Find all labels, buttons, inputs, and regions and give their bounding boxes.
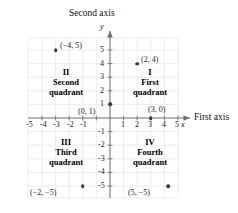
x-axis-variable: x <box>181 120 185 129</box>
quadrant-label-III: III Third quadrant <box>40 138 92 167</box>
point-label-neg2-neg5: (−2, −5) <box>30 189 56 197</box>
point-dot-2-4 <box>135 62 139 66</box>
quadrant-IV-word1: Fourth <box>124 148 176 157</box>
y-tick-label-5: 5 <box>100 46 104 54</box>
y-tick-label-neg1: -1 <box>98 128 105 136</box>
point-label-5-neg5: (5, −5) <box>128 189 150 197</box>
quadrant-I-numeral: I <box>124 68 176 77</box>
quadrant-III-word2: quadrant <box>40 158 92 167</box>
x-axis-title: First axis <box>194 113 229 123</box>
y-axis-title: Second axis <box>69 9 115 19</box>
quadrant-IV-numeral: IV <box>124 138 176 147</box>
y-tick-label-1: 1 <box>100 100 104 108</box>
x-tick-label-neg1: -1 <box>80 121 87 129</box>
quadrant-III-word1: Third <box>40 148 92 157</box>
x-tick-label-neg5: -5 <box>26 121 33 129</box>
point-dot-0-1 <box>108 103 112 107</box>
y-tick-label-neg5: -5 <box>98 182 105 190</box>
point-label-0-1: (0, 1) <box>78 108 95 116</box>
quadrant-IV-word2: quadrant <box>124 158 176 167</box>
y-tick-label-2: 2 <box>100 87 104 95</box>
y-axis-variable: y <box>100 22 104 31</box>
x-tick-label-5: 5 <box>175 121 179 129</box>
point-dot-neg2-neg5 <box>81 184 85 188</box>
plane-graphics <box>0 0 238 213</box>
quadrant-II-numeral: II <box>40 68 92 77</box>
x-tick-label-2: 2 <box>135 121 139 129</box>
quadrant-I-word1: First <box>124 78 176 87</box>
quadrant-I-word2: quadrant <box>124 88 176 97</box>
x-tick-label-1: 1 <box>121 121 125 129</box>
quadrant-label-IV: IV Fourth quadrant <box>124 138 176 167</box>
point-label-3-0: (3, 0) <box>148 106 165 114</box>
x-tick-label-neg3: -3 <box>53 121 60 129</box>
quadrant-label-II: II Second quadrant <box>40 68 92 97</box>
quadrant-II-word1: Second <box>40 78 92 87</box>
x-tick-label-4: 4 <box>162 121 166 129</box>
y-axis <box>107 31 113 198</box>
coordinate-plane-figure: Second axis y First axis x -5 -4 -3 -2 -… <box>0 0 238 213</box>
y-tick-label-4: 4 <box>100 60 104 68</box>
point-label-2-4: (2, 4) <box>141 56 158 64</box>
x-tick-label-neg4: -4 <box>40 121 47 129</box>
x-tick-label-3: 3 <box>148 121 152 129</box>
quadrant-II-word2: quadrant <box>40 88 92 97</box>
point-dot-5-neg5 <box>166 184 170 188</box>
y-tick-label-neg4: -4 <box>98 168 105 176</box>
point-dot-3-0 <box>149 116 153 120</box>
x-tick-label-neg2: -2 <box>67 121 74 129</box>
y-tick-label-3: 3 <box>100 73 104 81</box>
quadrant-III-numeral: III <box>40 138 92 147</box>
point-dot-neg4-5 <box>54 48 58 52</box>
y-tick-label-neg2: -2 <box>98 141 105 149</box>
y-tick-label-neg3: -3 <box>98 155 105 163</box>
quadrant-label-I: I First quadrant <box>124 68 176 97</box>
point-label-neg4-5: (−4, 5) <box>60 42 82 50</box>
